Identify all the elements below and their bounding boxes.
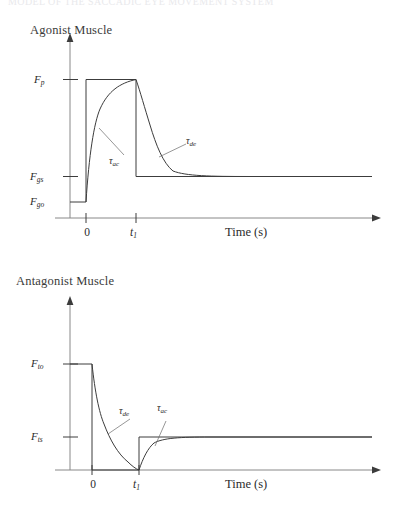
x-tick-label-t1-sub-antagonist: 1 [136, 483, 140, 492]
y-label-fto-sub: to [38, 362, 44, 371]
plot-agonist-canvas [0, 5, 395, 260]
y-label-fgo-sub: go [37, 200, 45, 209]
x-axis-title-agonist: Time (s) [225, 225, 267, 240]
y-label-fp-sub: p [41, 78, 45, 87]
x-tick-label-zero-antagonist: 0 [86, 478, 100, 490]
y-label-fgs-sub: gs [37, 175, 44, 184]
y-label-fp: Fp [34, 73, 44, 85]
y-label-fts-sub: ts [38, 435, 43, 444]
x-tick-label-t1-antagonist: t1 [133, 478, 140, 490]
y-axis-arrow-agonist [67, 33, 74, 42]
panel-agonist: Agonist Muscle Fp F [0, 5, 395, 260]
annotation-tau-de-agonist: τde [186, 135, 196, 146]
y-label-fts: Fts [31, 430, 43, 442]
leader-tau-de-antagonist [108, 419, 130, 434]
y-label-fgs: Fgs [30, 170, 43, 182]
panel-antagonist: Antagonist Muscle Fto [0, 262, 395, 515]
y-label-fto-symbol: F [31, 357, 38, 369]
x-tick-label-t1-sub-agonist: 1 [133, 231, 137, 240]
leader-tau-de-agonist [159, 144, 186, 157]
annotation-tau-de-sub-agonist: de [190, 140, 197, 148]
x-axis-arrow-antagonist [372, 466, 381, 473]
leader-tau-ac-agonist [99, 128, 124, 155]
annotation-tau-ac-agonist: τac [109, 155, 119, 166]
series-active-state-agonist [86, 80, 372, 203]
x-axis-arrow-agonist [372, 214, 381, 221]
annotation-tau-de-antagonist: τde [119, 405, 129, 416]
x-tick-label-t1-agonist: t1 [130, 226, 137, 238]
annotation-tau-ac-sub-agonist: ac [113, 160, 120, 168]
x-tick-label-zero-agonist: 0 [80, 226, 94, 238]
figure-muscle-force-time-courses: MODEL OF THE SACCADIC EYE MOVEMENT SYSTE… [0, 0, 395, 515]
series-active-state-antagonist [92, 364, 372, 470]
y-label-fts-symbol: F [31, 430, 38, 442]
y-label-fgs-symbol: F [30, 170, 37, 182]
y-label-fgo: Fgo [30, 195, 44, 207]
series-pulse-step-antagonist [70, 364, 372, 470]
x-axis-title-antagonist: Time (s) [225, 477, 267, 492]
annotation-tau-ac-sub-antagonist: ac [161, 407, 168, 415]
y-label-fp-symbol: F [34, 73, 41, 85]
y-label-fto: Fto [31, 357, 44, 369]
y-label-fgo-symbol: F [30, 195, 37, 207]
y-axis-arrow-antagonist [67, 296, 74, 305]
plot-antagonist-canvas [0, 262, 395, 515]
annotation-tau-ac-antagonist: τac [157, 402, 167, 413]
series-pulse-step-agonist [70, 80, 372, 203]
annotation-tau-de-sub-antagonist: de [123, 410, 130, 418]
leader-tau-ac-antagonist [155, 421, 166, 446]
